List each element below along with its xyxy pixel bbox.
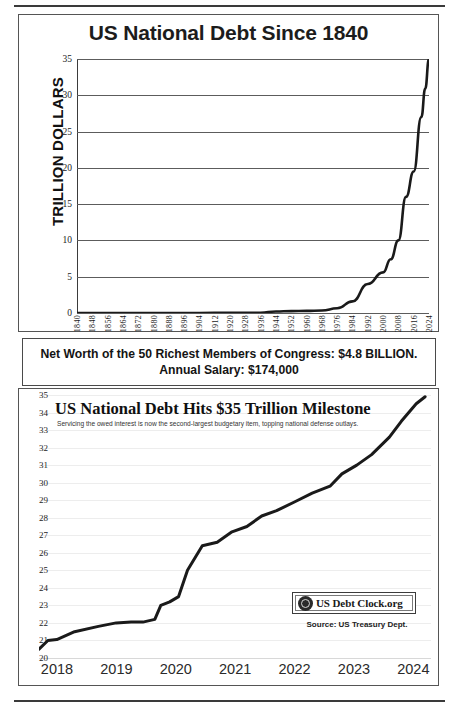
chart1-x-tick-label: 1984: [348, 315, 357, 332]
chart2-x-tick-label: 2020: [160, 661, 192, 677]
us-debt-clock-badge[interactable]: US Debt Clock.org: [292, 592, 416, 614]
bottom-divider-rule: [14, 700, 445, 702]
chart2-x-tick-label: 2018: [41, 661, 73, 677]
chart1-x-tick-label: 2000: [379, 315, 388, 332]
chart1-x-tick-label: 1968: [318, 315, 327, 332]
bottom-chart-panel: 20212223242526272829303132333435 US Nati…: [18, 388, 439, 686]
badge-label: US Debt Clock.org: [316, 597, 403, 609]
callout-box: Net Worth of the 50 Richest Members of C…: [22, 338, 436, 386]
chart1-x-tick-label: 1952: [287, 315, 296, 332]
chart1-x-tick-label: 1896: [180, 315, 189, 332]
chart1-x-tick-label: 1944: [272, 315, 281, 332]
chart1-line-series: [77, 59, 429, 313]
chart2-x-tick-label: 2019: [100, 661, 132, 677]
chart2-line-series: [39, 395, 431, 658]
chart1-y-tick-label: 5: [67, 272, 72, 282]
chart1-x-tick-label: 1864: [119, 315, 128, 332]
callout-line-2: Annual Salary: $174,000: [159, 363, 299, 377]
chart1-x-tick-label: 1880: [150, 315, 159, 332]
chart1-title: US National Debt Since 1840: [19, 21, 438, 45]
chart1-y-tick-label: 15: [63, 199, 73, 209]
chart1-x-tick-label: 1960: [303, 315, 312, 332]
chart1-x-tick-label: 1976: [333, 315, 342, 332]
chart1-y-tick-label: 25: [63, 126, 73, 136]
chart1-x-tick-label: 2008: [394, 315, 403, 332]
chart1-y-tick-label: 35: [63, 54, 73, 64]
chart1-x-tick-label: 1888: [165, 315, 174, 332]
chart1-x-tick-label: 1872: [134, 315, 143, 332]
chart1-y-tick-label: 0: [67, 308, 72, 318]
chart1-x-tick-label: 1928: [241, 315, 250, 332]
callout-line-1: Net Worth of the 50 Richest Members of C…: [41, 347, 418, 361]
debt-clock-emblem-icon: [298, 596, 313, 611]
chart1-x-tick-label: 1912: [211, 315, 220, 332]
chart1-x-tick-label: 1920: [226, 315, 235, 332]
chart2-x-tick-label: 2024: [397, 661, 429, 677]
chart1-x-tick-label: 1848: [88, 315, 97, 332]
chart2-x-tick-label: 2022: [278, 661, 310, 677]
source-note: Source: US Treasury Dept.: [292, 620, 422, 629]
top-chart-panel: US National Debt Since 1840 TRILLION DOL…: [18, 14, 439, 332]
chart1-gridline: [77, 313, 429, 314]
top-divider-rule: [14, 5, 445, 7]
infographic-page: US National Debt Since 1840 TRILLION DOL…: [0, 0, 459, 712]
chart2-title: US National Debt Hits $35 Trillion Miles…: [55, 399, 371, 419]
chart1-x-tick-label: 1840: [73, 315, 82, 332]
chart1-y-tick-label: 10: [63, 235, 73, 245]
chart1-x-tick-label: 2016: [410, 315, 419, 332]
chart1-y-tick-label: 20: [63, 163, 73, 173]
chart1-x-tick-label: 1936: [257, 315, 266, 332]
chart1-y-axis-label: TRILLION DOLLARS: [49, 52, 66, 252]
chart2-x-tick-label: 2023: [338, 661, 370, 677]
chart2-gridline: [39, 658, 431, 659]
chart2-x-tick-labels: 2018201920202021202220232024: [39, 661, 431, 685]
chart1-x-tick-label: 1856: [104, 315, 113, 332]
chart2-subtitle: Servicing the owed interest is now the s…: [57, 420, 358, 427]
chart1-x-tick-label: 1904: [195, 315, 204, 332]
chart1-x-tick-label: 1992: [364, 315, 373, 332]
chart2-x-tick-label: 2021: [219, 661, 251, 677]
chart1-x-tick-label: 2024: [425, 315, 434, 332]
chart1-y-tick-label: 30: [63, 90, 73, 100]
